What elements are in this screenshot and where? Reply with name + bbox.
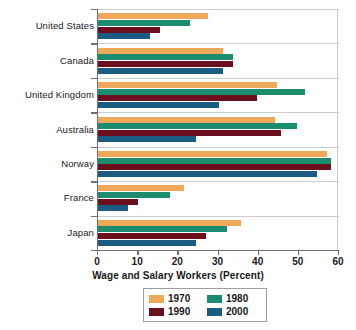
bar-chart-figure: United StatesCanadaUnited KingdomAustral… <box>0 0 356 330</box>
x-axis-tick-label: 30 <box>203 256 233 267</box>
plot-frame-top <box>98 9 339 10</box>
legend-swatch <box>207 295 222 303</box>
bar <box>98 130 281 136</box>
bar <box>98 226 227 232</box>
bar <box>98 54 233 60</box>
y-axis-tick <box>91 216 97 217</box>
x-axis-tick <box>218 250 219 255</box>
x-axis-tick <box>258 250 259 255</box>
bar <box>98 233 206 239</box>
x-axis-tick <box>97 250 98 255</box>
bar <box>98 48 223 54</box>
legend-item: 1970 <box>149 293 203 304</box>
y-axis-label: United States <box>0 20 94 31</box>
y-axis-label: Australia <box>0 124 94 135</box>
bar <box>98 164 331 170</box>
x-axis-tick-label: 20 <box>162 256 192 267</box>
y-axis-label: United Kingdom <box>0 89 94 100</box>
x-axis-tick <box>137 250 138 255</box>
bar <box>98 158 331 164</box>
legend-swatch <box>149 308 164 316</box>
bar <box>98 102 219 108</box>
bar <box>98 13 208 19</box>
legend-item: 1990 <box>149 306 203 317</box>
y-axis-tick <box>91 9 97 10</box>
bar <box>98 68 223 74</box>
bar <box>98 240 196 246</box>
bar <box>98 95 257 101</box>
plot-frame-right <box>337 9 338 250</box>
y-axis-label: Japan <box>0 227 94 238</box>
legend-label: 1970 <box>168 293 190 304</box>
gridline <box>98 147 339 148</box>
x-axis-tick <box>177 250 178 255</box>
gridline <box>98 78 339 79</box>
x-axis-tick-label: 60 <box>323 256 353 267</box>
bar <box>98 82 277 88</box>
bar <box>98 185 184 191</box>
legend-swatch <box>207 308 222 316</box>
y-axis-tick <box>91 112 97 113</box>
x-axis-tick <box>338 250 339 255</box>
bar <box>98 171 317 177</box>
gridline <box>98 216 339 217</box>
legend-grid: 1970198019902000 <box>149 293 261 317</box>
y-axis-tick <box>91 147 97 148</box>
x-axis-tick <box>298 250 299 255</box>
y-axis-tick <box>91 181 97 182</box>
legend-label: 2000 <box>226 306 248 317</box>
y-axis-label: Canada <box>0 55 94 66</box>
gridline <box>98 112 339 113</box>
bar <box>98 33 150 39</box>
y-axis-tick <box>91 78 97 79</box>
x-axis-tick-label: 0 <box>82 256 112 267</box>
x-axis-tick-label: 10 <box>122 256 152 267</box>
y-axis-label: Norway <box>0 158 94 169</box>
legend-item: 1980 <box>207 293 261 304</box>
legend-swatch <box>149 295 164 303</box>
bar <box>98 117 275 123</box>
x-axis-tick-label: 40 <box>243 256 273 267</box>
legend: 1970198019902000 <box>143 288 267 322</box>
y-axis-label: France <box>0 192 94 203</box>
legend-label: 1990 <box>168 306 190 317</box>
bar <box>98 192 170 198</box>
y-axis-tick <box>91 43 97 44</box>
bar <box>98 205 128 211</box>
legend-label: 1980 <box>226 293 248 304</box>
bar <box>98 151 327 157</box>
x-axis-title: Wage and Salary Workers (Percent) <box>0 270 356 281</box>
gridline <box>98 181 339 182</box>
bar <box>98 89 305 95</box>
bar <box>98 123 297 129</box>
plot-area <box>97 9 338 250</box>
bar <box>98 220 241 226</box>
bar <box>98 20 190 26</box>
bar <box>98 27 160 33</box>
bar <box>98 61 233 67</box>
x-axis-tick-label: 50 <box>283 256 313 267</box>
gridline <box>98 43 339 44</box>
bar <box>98 199 138 205</box>
bar <box>98 136 196 142</box>
legend-item: 2000 <box>207 306 261 317</box>
